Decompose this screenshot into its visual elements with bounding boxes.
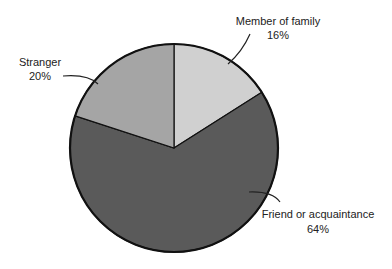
label-stranger-name: Stranger — [19, 56, 62, 68]
leader-line-family — [228, 34, 250, 64]
label-friend-name: Friend or acquaintance — [262, 208, 375, 220]
pie-chart: Member of family 16% Stranger 20% Friend… — [0, 0, 392, 269]
label-friend-pct: 64% — [307, 223, 329, 235]
label-family-pct: 16% — [267, 29, 289, 41]
label-family-name: Member of family — [236, 15, 321, 27]
label-stranger-pct: 20% — [29, 70, 51, 82]
